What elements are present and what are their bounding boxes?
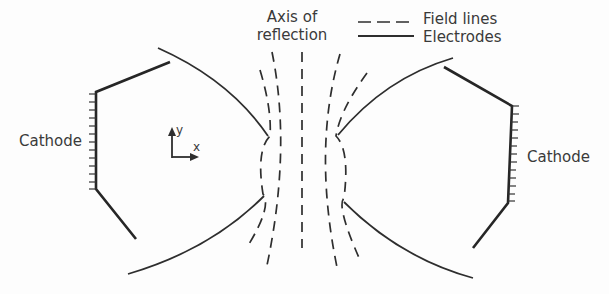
right-cathode: Cathode bbox=[444, 67, 590, 248]
electrode-field-diagram: Axis of reflection Field lines Electrode… bbox=[0, 0, 609, 294]
left-cathode-outline bbox=[96, 62, 170, 239]
x-arrow-icon bbox=[190, 153, 199, 161]
axes-indicator: y x bbox=[168, 123, 200, 161]
field-line-outer-left bbox=[249, 70, 270, 244]
y-axis-label: y bbox=[176, 123, 183, 137]
right-cathode-label: Cathode bbox=[527, 148, 590, 166]
right-lower-electrode bbox=[344, 202, 473, 278]
legend-label-field-lines: Field lines bbox=[423, 10, 497, 28]
legend: Field lines Electrodes bbox=[358, 10, 502, 46]
field-line-inner-right bbox=[325, 54, 340, 272]
left-upper-electrode bbox=[158, 48, 268, 136]
legend-label-electrodes: Electrodes bbox=[423, 28, 502, 46]
axis-label-line2: reflection bbox=[257, 26, 328, 44]
right-cathode-outline bbox=[444, 67, 512, 248]
x-axis-label: x bbox=[193, 140, 200, 154]
y-arrow-icon bbox=[168, 127, 176, 136]
left-lower-electrode bbox=[128, 196, 264, 274]
field-line-inner-left bbox=[266, 52, 281, 270]
axis-label-line1: Axis of bbox=[267, 8, 318, 26]
electrodes bbox=[128, 48, 473, 278]
diagram-canvas: Axis of reflection Field lines Electrode… bbox=[0, 0, 609, 294]
left-cathode: Cathode bbox=[19, 62, 170, 239]
field-line-outer-right bbox=[336, 73, 367, 260]
left-cathode-label: Cathode bbox=[19, 132, 82, 150]
field-lines bbox=[249, 52, 367, 272]
right-upper-electrode bbox=[338, 58, 453, 135]
